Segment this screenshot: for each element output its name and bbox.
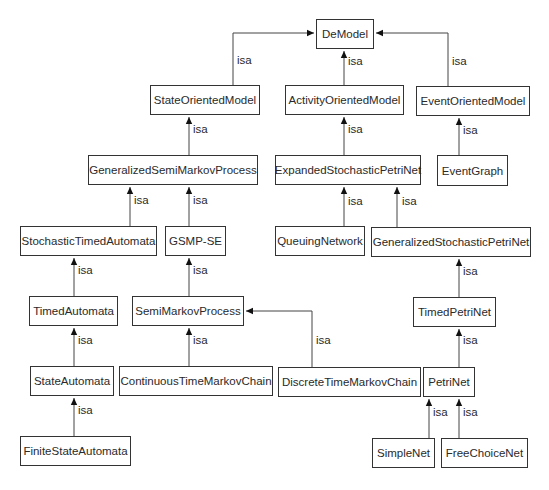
arrowhead-icon [186,117,192,124]
arrowhead-icon [341,187,347,194]
node-continuoustimemarkovchain: ContinuousTimeMarkovChain [119,366,273,396]
isa-edge-label: isa [348,123,363,135]
isa-edge-label: isa [78,404,93,416]
isa-edge-label: isa [237,54,252,66]
isa-edge-label: isa [78,264,93,276]
isa-edge-label: isa [463,334,478,346]
arrowhead-icon [186,328,192,335]
isa-hierarchy-diagram: DeModelStateOrientedModelActivityOriente… [0,0,549,490]
isa-edge [246,311,312,367]
arrowhead-icon [394,187,400,194]
arrowhead-icon [71,328,77,335]
node-demodel: DeModel [316,19,374,49]
arrowhead-icon [71,398,77,405]
node-gsmp-se: GSMP-SE [165,226,226,256]
arrowhead-icon [127,187,133,194]
isa-edge-label: isa [433,406,448,418]
isa-edge-label: isa [348,195,363,207]
node-timedautomata: TimedAutomata [29,296,118,326]
isa-edge-label: isa [193,194,208,206]
arrowhead-icon [186,187,192,194]
node-stateorientedmodel: StateOrientedModel [150,85,260,115]
node-finitestateautomata: FiniteStateAutomata [20,436,131,466]
node-discretetimemarkovchain: DiscreteTimeMarkovChain [278,367,421,397]
isa-edge-label: isa [463,406,478,418]
isa-edge-label: isa [348,55,363,67]
arrowhead-icon [456,399,462,406]
arrowhead-icon [456,118,462,125]
isa-edge-label: isa [402,195,417,207]
node-freechoicenet: FreeChoiceNet [441,438,528,468]
node-generalizedstochasticpetrinet: GeneralizedStochasticPetriNet [371,227,531,257]
arrowhead-icon [341,117,347,124]
node-stateautomata: StateAutomata [30,366,114,396]
node-semimarkovprocess: SemiMarkovProcess [132,296,244,326]
arrowhead-icon [376,30,383,36]
isa-edge-label: isa [193,334,208,346]
arrowhead-icon [456,329,462,336]
isa-edge-label: isa [78,334,93,346]
arrowhead-icon [426,399,432,406]
isa-edge-label: isa [463,265,478,277]
isa-edge [376,33,448,86]
arrowhead-icon [71,258,77,265]
node-petrinet: PetriNet [423,367,475,397]
arrowhead-icon [341,51,347,58]
arrowhead-icon [186,258,192,265]
node-simplenet: SimpleNet [372,438,435,468]
node-generalizedsemimarkovprocess: GeneralizedSemiMarkovProcess [88,155,258,185]
isa-edge-label: isa [193,264,208,276]
node-eventgraph: EventGraph [437,155,508,186]
node-expandedstochasticpetrinet: ExpandedStochasticPetriNet [275,155,421,185]
isa-edge-label: isa [193,123,208,135]
node-eventorientedmodel: EventOrientedModel [416,86,530,116]
arrowhead-icon [456,259,462,266]
arrowhead-icon [307,30,314,36]
isa-edge-label: isa [463,124,478,136]
isa-edge-label: isa [452,55,467,67]
isa-edge-label: isa [134,194,149,206]
arrowhead-icon [246,308,253,314]
node-queuingnetwork: QueuingNetwork [275,226,365,256]
node-stochastictimedautomata: StochasticTimedAutomata [20,226,157,256]
isa-edge-label: isa [316,334,331,346]
node-activityorientedmodel: ActivityOrientedModel [285,85,404,115]
node-timedpetrinet: TimedPetriNet [413,297,496,327]
